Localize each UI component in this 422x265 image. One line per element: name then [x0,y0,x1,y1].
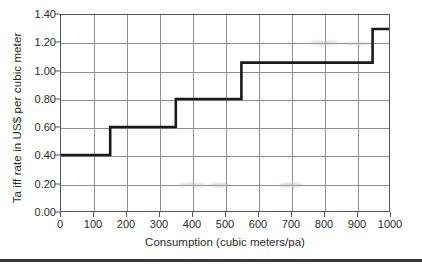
x-axis-title: Consumption (cubic meters/pa) [60,236,390,248]
x-tick-label: 700 [282,218,300,230]
x-tick-label: 100 [84,218,102,230]
plot-area [60,14,390,212]
y-axis-tick-labels: 0.000.200.400.600.801.001.201.40 [26,14,56,212]
x-tick-label: 800 [315,218,333,230]
x-tick-mark [390,212,391,217]
x-tick-mark [93,212,94,217]
y-tick-label: 1.00 [26,65,56,77]
x-tick-mark [291,212,292,217]
x-tick-label: 1000 [378,218,402,230]
bottom-divider [0,259,422,262]
x-tick-label: 500 [216,218,234,230]
x-tick-mark [258,212,259,217]
x-tick-mark [159,212,160,217]
x-tick-mark [192,212,193,217]
y-tick-label: 0.00 [26,206,56,218]
x-tick-label: 0 [57,218,63,230]
y-tick-label: 0.40 [26,149,56,161]
x-tick-label: 400 [183,218,201,230]
x-tick-mark [357,212,358,217]
x-tick-label: 900 [348,218,366,230]
x-tick-mark [60,212,61,217]
y-tick-label: 1.40 [26,8,56,20]
chart-figure: Ta iff rate in US$ per cubic meter 0.000… [0,0,422,265]
y-tick-label: 1.20 [26,36,56,48]
x-tick-mark [126,212,127,217]
y-tick-label: 0.80 [26,93,56,105]
x-tick-label: 200 [117,218,135,230]
y-tick-label: 0.60 [26,121,56,133]
x-tick-mark [324,212,325,217]
step-line-series [61,15,389,211]
x-tick-label: 300 [150,218,168,230]
y-tick-label: 0.20 [26,178,56,190]
tariff-step-polyline [61,29,389,155]
x-tick-label: 600 [249,218,267,230]
x-tick-mark [225,212,226,217]
x-axis-tick-labels: 01002003004005006007008009001000 [60,218,390,234]
y-axis-title: Ta iff rate in US$ per cubic meter [6,12,28,224]
